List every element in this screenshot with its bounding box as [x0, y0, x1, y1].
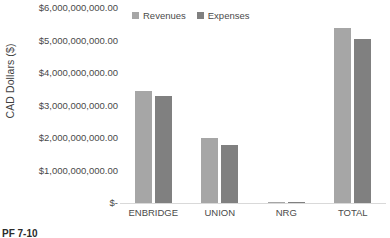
- bar-group: [187, 8, 254, 203]
- y-axis-tick-label: $3,000,000,000.00: [14, 101, 118, 111]
- bar-enbridge-expenses[interactable]: [155, 96, 172, 203]
- y-axis-tick-label: $6,000,000,000.00: [14, 3, 118, 13]
- bar-group: [253, 8, 320, 203]
- legend-label: Expenses: [208, 10, 250, 21]
- y-axis-tick-label: $1,000,000,000.00: [14, 166, 118, 176]
- legend-item-expenses[interactable]: Expenses: [197, 10, 250, 21]
- x-axis-label-nrg: NRG: [253, 207, 320, 219]
- bar-enbridge-revenues[interactable]: [135, 91, 152, 203]
- bar-group: [320, 8, 387, 203]
- legend-swatch-icon: [132, 12, 139, 19]
- bar-union-revenues[interactable]: [201, 138, 218, 203]
- legend-label: Revenues: [143, 10, 186, 21]
- x-axis-label-union: UNION: [187, 207, 254, 219]
- chart-legend: RevenuesExpenses: [132, 10, 250, 21]
- y-axis-tick-label: $-: [14, 198, 118, 208]
- plot-area: [120, 8, 386, 203]
- legend-item-revenues[interactable]: Revenues: [132, 10, 186, 21]
- x-axis-label-enbridge: ENBRIDGE: [120, 207, 187, 219]
- x-axis-label-total: TOTAL: [320, 207, 387, 219]
- footer-caption: PF 7-10: [2, 228, 38, 238]
- x-axis-line: [120, 203, 386, 204]
- y-axis-tick-label: $2,000,000,000.00: [14, 133, 118, 143]
- bar-total-expenses[interactable]: [354, 39, 371, 203]
- legend-swatch-icon: [197, 12, 204, 19]
- y-axis-tick-label: $4,000,000,000.00: [14, 68, 118, 78]
- y-axis-tick-label: $5,000,000,000.00: [14, 36, 118, 46]
- bar-total-revenues[interactable]: [334, 28, 351, 204]
- bar-chart: CAD Dollars ($) $6,000,000,000.00$5,000,…: [0, 0, 390, 238]
- x-axis-tick-labels: ENBRIDGEUNIONNRGTOTAL: [120, 207, 386, 223]
- y-axis-tick-labels: $6,000,000,000.00$5,000,000,000.00$4,000…: [14, 0, 118, 210]
- bar-group: [120, 8, 187, 203]
- bar-union-expenses[interactable]: [221, 145, 238, 203]
